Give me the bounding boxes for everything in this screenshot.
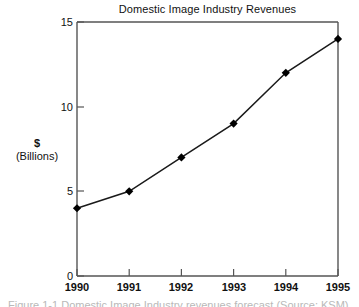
data-point-1990 xyxy=(73,204,81,212)
y-tick-label-5: 5 xyxy=(43,186,73,197)
data-point-1992 xyxy=(177,153,185,161)
x-tick-marks xyxy=(77,269,338,276)
data-series-line xyxy=(77,39,338,208)
x-tick-label-1990: 1990 xyxy=(54,281,100,293)
data-point-markers xyxy=(73,35,342,213)
y-axis-label: $ (Billions) xyxy=(6,137,68,163)
y-axis-label-line1: $ xyxy=(6,137,68,150)
x-tick-label-1994: 1994 xyxy=(263,281,309,293)
y-tick-marks xyxy=(77,22,84,276)
data-point-1991 xyxy=(125,187,133,195)
x-tick-label-1992: 1992 xyxy=(158,281,204,293)
chart-figure: Domestic Image Industry Revenues xyxy=(0,0,359,307)
data-point-1995 xyxy=(334,35,342,43)
x-tick-label-1991: 1991 xyxy=(106,281,152,293)
figure-caption-clipped: Figure 1-1 Domestic Image Industry reven… xyxy=(0,299,359,307)
y-axis-label-line2: (Billions) xyxy=(6,150,68,163)
y-tick-label-15: 15 xyxy=(43,17,73,28)
x-tick-label-1995: 1995 xyxy=(315,281,359,293)
x-tick-label-1993: 1993 xyxy=(211,281,257,293)
axis-lines xyxy=(77,22,338,276)
y-tick-label-10: 10 xyxy=(43,102,73,113)
